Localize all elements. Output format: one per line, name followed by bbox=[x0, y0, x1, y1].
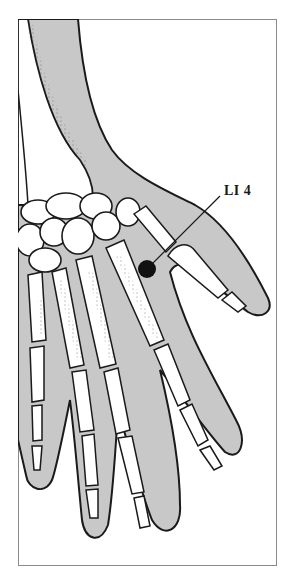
point-label: LI 4 bbox=[224, 183, 251, 199]
acupoint-marker bbox=[138, 260, 156, 278]
hand-illustration bbox=[0, 0, 293, 584]
